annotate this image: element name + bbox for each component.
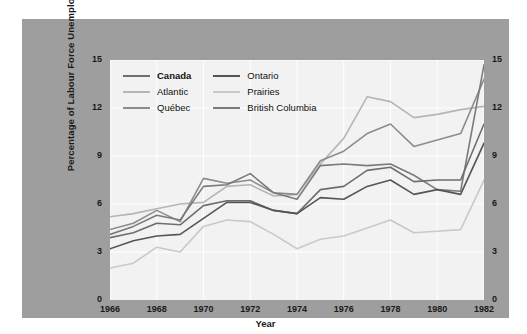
- legend-label-ontario: Ontario: [247, 70, 278, 81]
- x-axis-title: Year: [22, 318, 509, 329]
- legend-label-canada: Canada: [157, 70, 191, 81]
- x-tick-1972: 1972: [230, 304, 270, 314]
- legend-swatch-british-columbia: [213, 107, 240, 109]
- figure-panel: Percentage of Labour Force Unemployed 15…: [22, 19, 509, 318]
- legend-swatch-atlantic: [123, 91, 150, 93]
- y-tick-left-12: 12: [80, 102, 102, 112]
- legend-label-atlantic: Atlantic: [157, 86, 188, 97]
- y-tick-right-15: 15: [492, 54, 514, 64]
- legend: Canada Ontario Atlantic Prairies Québec …: [123, 69, 317, 114]
- y-tick-right-3: 3: [492, 246, 514, 256]
- legend-swatch-prairies: [213, 91, 240, 93]
- series-line-ontario: [110, 143, 484, 249]
- y-tick-right-9: 9: [492, 150, 514, 160]
- legend-label-quebec: Québec: [157, 102, 190, 113]
- y-tick-right-12: 12: [492, 102, 514, 112]
- legend-entry-prairies[interactable]: Prairies: [213, 85, 316, 98]
- legend-entry-ontario[interactable]: Ontario: [213, 69, 316, 82]
- x-tick-1968: 1968: [137, 304, 177, 314]
- x-tick-1976: 1976: [324, 304, 364, 314]
- y-tick-left-0: 0: [80, 294, 102, 304]
- x-tick-1982: 1982: [464, 304, 504, 314]
- legend-label-prairies: Prairies: [247, 86, 279, 97]
- legend-label-british-columbia: British Columbia: [247, 102, 316, 113]
- y-tick-left-6: 6: [80, 198, 102, 208]
- x-tick-1966: 1966: [90, 304, 130, 314]
- y-tick-left-15: 15: [80, 54, 102, 64]
- legend-swatch-ontario: [213, 75, 240, 77]
- series-line-canada: [110, 124, 484, 238]
- legend-swatch-quebec: [123, 107, 150, 109]
- legend-entry-canada[interactable]: Canada: [123, 69, 191, 82]
- x-tick-1980: 1980: [417, 304, 457, 314]
- y-axis-title: Percentage of Labour Force Unemployed: [65, 0, 76, 177]
- x-tick-1974: 1974: [277, 304, 317, 314]
- legend-swatch-canada: [123, 75, 150, 77]
- legend-entry-atlantic[interactable]: Atlantic: [123, 85, 191, 98]
- legend-entry-british-columbia[interactable]: British Columbia: [213, 101, 316, 114]
- legend-entry-quebec[interactable]: Québec: [123, 101, 191, 114]
- y-tick-left-3: 3: [80, 246, 102, 256]
- y-tick-left-9: 9: [80, 150, 102, 160]
- x-tick-1970: 1970: [184, 304, 224, 314]
- y-tick-right-0: 0: [492, 294, 514, 304]
- x-tick-1978: 1978: [371, 304, 411, 314]
- chart-screenshot: Percentage of Labour Force Unemployed 15…: [0, 0, 527, 334]
- y-tick-right-6: 6: [492, 198, 514, 208]
